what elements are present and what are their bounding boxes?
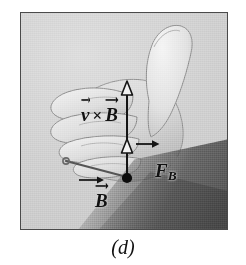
vector-arrow-over-b-cross xyxy=(105,95,119,103)
force-subscript: B xyxy=(168,168,177,183)
v-symbol: v xyxy=(81,105,89,124)
b-symbol: B xyxy=(95,191,108,210)
f-glyph: F xyxy=(155,160,168,181)
v-cross-b-label: v × B xyxy=(81,105,118,124)
v-glyph: v xyxy=(81,104,89,125)
magnetic-force-label: F B xyxy=(155,161,177,183)
f-symbol: F xyxy=(155,161,168,180)
b-symbol-in-cross: B xyxy=(105,105,118,124)
photo-frame: v × B F B xyxy=(20,12,228,230)
vector-arrow-over-v xyxy=(81,95,90,103)
b-glyph: B xyxy=(95,190,108,211)
figure-caption: (d) xyxy=(0,236,246,259)
b-glyph-in-cross: B xyxy=(105,104,118,125)
figure-root: v × B F B xyxy=(0,0,246,265)
b-field-label: B xyxy=(95,191,108,210)
cross-product-operator: × xyxy=(89,106,105,125)
vector-arrow-over-b xyxy=(95,181,109,189)
